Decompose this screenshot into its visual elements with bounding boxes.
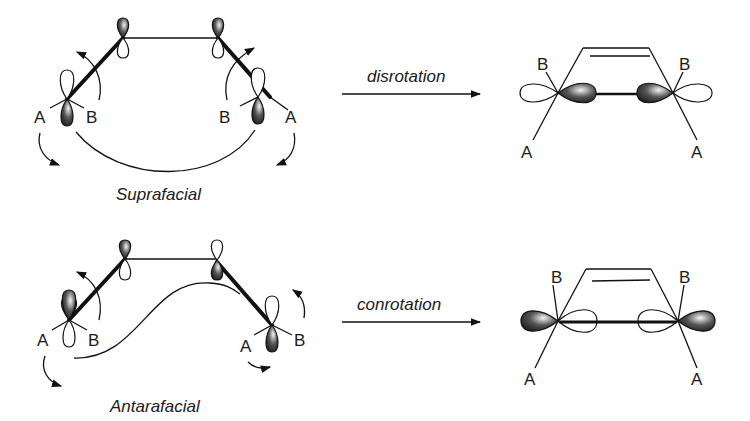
suprafacial-reactant: A B B A [34,18,297,172]
arrow-label-disrotation: disrotation [367,67,445,86]
label-b: B [551,268,562,287]
conrotation-arrow: conrotation [342,295,480,322]
caption-antarafacial: Antarafacial [109,397,201,416]
electrocyclic-diagram: A B B A Suprafacial disrotation B A B A [0,0,750,421]
label-a: A [691,143,703,162]
label-b: B [294,331,305,350]
caption-suprafacial: Suprafacial [116,185,202,204]
disrotation-arrow: disrotation [342,67,480,94]
label-b: B [679,55,690,74]
arrow-label-conrotation: conrotation [357,295,441,314]
label-a: A [521,143,533,162]
conrotation-product: B A B A [521,268,715,389]
label-a: A [37,331,49,350]
label-a: A [285,108,297,127]
label-a: A [240,337,252,356]
label-b: B [86,108,97,127]
label-a: A [691,370,703,389]
label-a: A [34,108,46,127]
label-b: B [537,55,548,74]
label-b: B [219,108,230,127]
antarafacial-reactant: A B A B [37,240,305,386]
label-b: B [679,268,690,287]
label-b: B [88,331,99,350]
disrotation-product: B A B A [520,48,712,162]
label-a: A [524,370,536,389]
